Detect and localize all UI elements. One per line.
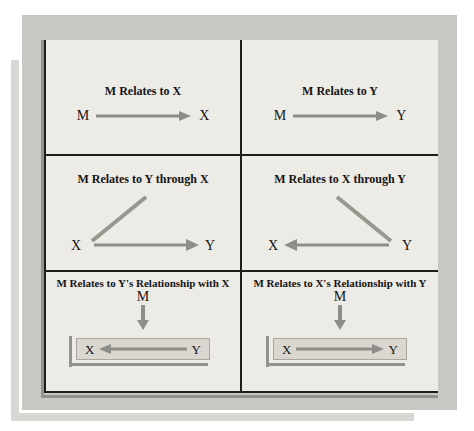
node-label-m: M bbox=[334, 290, 346, 304]
m-to-y-arrow-icon bbox=[293, 110, 389, 122]
relationship-box-shadow: X Y bbox=[273, 338, 407, 360]
relationship-box: X Y bbox=[273, 338, 407, 360]
node-label-x: X bbox=[71, 238, 81, 253]
mediation-moderation-figure: M Relates to X M X M bbox=[0, 0, 474, 431]
panel-title: M Relates to X through Y bbox=[274, 172, 406, 187]
panel-m-relates-to-y: M Relates to Y M Y bbox=[242, 40, 438, 156]
x-to-y-arrow-icon bbox=[296, 344, 384, 354]
m-to-x-arrow-icon bbox=[96, 110, 192, 122]
node-label-y: Y bbox=[389, 343, 398, 356]
relationship-box: X Y bbox=[76, 338, 210, 360]
m-down-arrow-icon bbox=[333, 305, 347, 331]
node-label-m: M bbox=[77, 109, 89, 123]
panel-title: M Relates to Y through X bbox=[77, 172, 208, 187]
panel-title: M Relates to Y bbox=[302, 84, 378, 99]
panel-title: M Relates to X bbox=[105, 84, 181, 99]
arrowhead-left-icon bbox=[284, 239, 297, 251]
panel-m-relates-to-x: M Relates to X M X bbox=[46, 40, 242, 156]
panel-title: M Relates to X's Relationship with Y bbox=[253, 277, 426, 289]
mediation-path-diagram: X Y bbox=[58, 195, 228, 257]
arrowhead-right-icon bbox=[186, 239, 199, 251]
relations-table: M Relates to X M X M bbox=[44, 40, 438, 393]
panel-moderation-y-with-x: M Relates to Y's Relationship with X M X bbox=[46, 272, 242, 391]
node-label-m: M bbox=[274, 109, 286, 123]
m-down-arrow-icon bbox=[136, 305, 150, 331]
node-label-x: X bbox=[268, 238, 278, 253]
page-shadow-bottom bbox=[11, 413, 414, 421]
node-label-y: Y bbox=[396, 109, 406, 123]
panel-mediation-through-x: M Relates to Y through X X Y bbox=[46, 156, 242, 272]
relations-table-shadow: M Relates to X M X M bbox=[41, 40, 438, 398]
mediation-path-diagram: X Y bbox=[255, 195, 425, 257]
panel-moderation-x-with-y: M Relates to X's Relationship with Y M X bbox=[242, 272, 438, 391]
y-to-x-arrow-icon bbox=[99, 344, 187, 354]
node-label-m: M bbox=[137, 290, 149, 304]
m-to-y-diagonal-line bbox=[337, 197, 391, 241]
node-label-x: X bbox=[85, 343, 94, 356]
figure-panel: M Relates to X M X M bbox=[22, 15, 457, 410]
m-to-x-diagonal-line bbox=[92, 197, 146, 241]
node-label-x: X bbox=[199, 109, 209, 123]
node-label-y: Y bbox=[192, 343, 201, 356]
node-label-y: Y bbox=[402, 238, 412, 253]
page-shadow-left bbox=[11, 60, 19, 421]
panel-title: M Relates to Y's Relationship with X bbox=[56, 277, 229, 289]
node-label-x: X bbox=[282, 343, 291, 356]
panel-mediation-through-y: M Relates to X through Y X Y bbox=[242, 156, 438, 272]
relationship-box-shadow: X Y bbox=[76, 338, 210, 360]
node-label-y: Y bbox=[205, 238, 215, 253]
